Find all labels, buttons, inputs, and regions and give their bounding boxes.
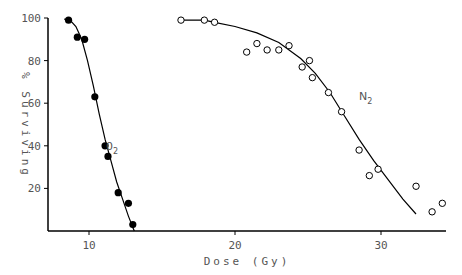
n2-point: [299, 64, 305, 70]
fit-curves: [64, 19, 416, 231]
o2-point: [81, 36, 88, 43]
o2-point: [129, 221, 136, 228]
y-tick-label: 80: [28, 55, 41, 68]
n2-point: [264, 47, 270, 53]
x-axis-title: Dose (Gy): [204, 255, 291, 268]
n2-point: [178, 17, 184, 23]
o2-point: [125, 200, 132, 207]
n2-point: [429, 209, 435, 215]
x-tick-label: 10: [82, 239, 95, 252]
n2-label-subscript: 2: [367, 97, 372, 106]
o2-point: [74, 34, 81, 41]
o2-point: [91, 93, 98, 100]
axes: 20406080100102030: [21, 12, 446, 252]
n2-point: [254, 40, 260, 46]
n2-point: [439, 200, 445, 206]
y-axis-title: % Surviving: [19, 72, 32, 178]
y-tick-label: 100: [21, 12, 41, 25]
n2-point: [309, 74, 315, 80]
n2-point: [286, 42, 292, 48]
n2-point: [325, 89, 331, 95]
n2-point: [366, 172, 372, 178]
o2-fit-curve: [64, 19, 134, 231]
o2-point: [104, 153, 111, 160]
n2-point: [356, 147, 362, 153]
n2-point: [375, 166, 381, 172]
n2-point: [338, 109, 344, 115]
y-tick-label: 20: [28, 182, 41, 195]
x-tick-label: 30: [374, 239, 387, 252]
x-tick-label: 20: [228, 239, 241, 252]
o2-label-subscript: 2: [113, 147, 118, 156]
n2-label: N2: [359, 90, 372, 106]
n2-fit-curve: [181, 20, 416, 214]
n2-point: [413, 183, 419, 189]
n2-point: [211, 19, 217, 25]
n2-point: [243, 49, 249, 55]
survival-chart: 20406080100102030 02N2 Dose (Gy) % Survi…: [0, 0, 462, 275]
n2-point: [276, 47, 282, 53]
series-labels: 02N2: [106, 90, 372, 156]
o2-point: [115, 189, 122, 196]
o2-point: [65, 17, 72, 24]
n2-point: [201, 17, 207, 23]
n2-point: [306, 57, 312, 63]
